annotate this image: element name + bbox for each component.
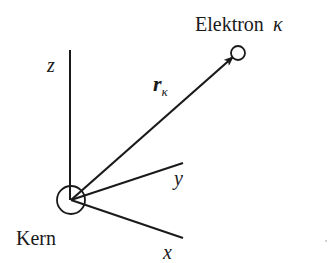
position-vector-arrow xyxy=(71,57,233,200)
x-axis xyxy=(71,200,183,238)
x-axis-label: x xyxy=(163,242,172,262)
electron-circle xyxy=(231,46,245,60)
y-axis xyxy=(71,163,183,200)
z-axis-label: z xyxy=(47,55,55,75)
electron-index: κ xyxy=(273,13,283,35)
stray-dot xyxy=(325,240,327,242)
nucleus-label: Kern xyxy=(16,228,56,248)
vector-label: rκ xyxy=(153,73,168,95)
vector-subscript: κ xyxy=(162,84,168,99)
electron-label-text: Elektron xyxy=(195,13,264,35)
electron-label: Elektron κ xyxy=(195,14,282,34)
y-axis-label: y xyxy=(174,168,183,188)
coordinate-diagram xyxy=(0,0,328,263)
vector-symbol: r xyxy=(153,71,162,96)
